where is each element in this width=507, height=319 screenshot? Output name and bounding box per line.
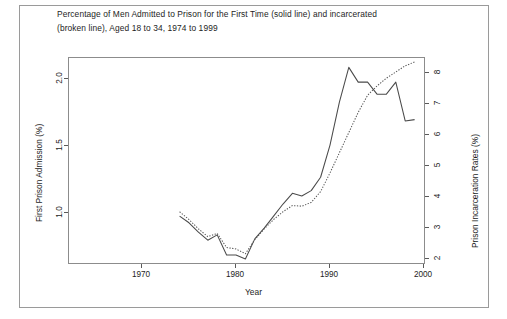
y-left-tick-label: 1.5	[55, 139, 64, 150]
chart-title-line-2: (broken line), Aged 18 to 34, 1974 to 19…	[57, 22, 457, 36]
x-tick-label: 2000	[414, 270, 432, 279]
x-tick-mark	[423, 264, 424, 268]
x-tick-mark	[329, 264, 330, 268]
y-axis-right-label: Prison Incarceration Rates (%)	[470, 134, 480, 248]
y-left-tick-mark	[64, 78, 68, 79]
chart-title: Percentage of Men Admitted to Prison for…	[57, 8, 457, 35]
chart-canvas	[69, 58, 424, 263]
y-left-tick-mark	[64, 145, 68, 146]
y-right-tick-label: 8	[433, 70, 442, 75]
y-right-tick-mark	[425, 134, 429, 135]
x-tick-label: 1990	[320, 270, 338, 279]
series-prison-incarceration-rates	[180, 62, 415, 254]
chart-title-line-1: Percentage of Men Admitted to Prison for…	[57, 8, 457, 22]
y-left-tick-mark	[64, 212, 68, 213]
y-right-tick-label: 4	[433, 194, 442, 199]
y-right-tick-label: 5	[433, 163, 442, 168]
x-tick-mark	[235, 264, 236, 268]
x-tick-label: 1970	[132, 270, 150, 279]
y-right-tick-mark	[425, 227, 429, 228]
y-right-tick-label: 7	[433, 101, 442, 106]
y-right-tick-mark	[425, 72, 429, 73]
x-tick-mark	[141, 264, 142, 268]
y-axis-left-label: First Prison Admission (%)	[34, 124, 44, 222]
y-right-tick-mark	[425, 196, 429, 197]
y-right-tick-label: 2	[433, 256, 442, 261]
y-right-tick-mark	[425, 258, 429, 259]
x-tick-label: 1980	[226, 270, 244, 279]
y-left-tick-label: 1.0	[55, 206, 64, 217]
y-left-tick-label: 2.0	[55, 72, 64, 83]
y-right-tick-mark	[425, 103, 429, 104]
series-first-prison-admission	[180, 67, 415, 259]
y-right-tick-label: 3	[433, 225, 442, 230]
x-axis-label: Year	[0, 287, 507, 297]
plot-area	[68, 57, 425, 264]
y-right-tick-label: 6	[433, 132, 442, 137]
y-right-tick-mark	[425, 165, 429, 166]
